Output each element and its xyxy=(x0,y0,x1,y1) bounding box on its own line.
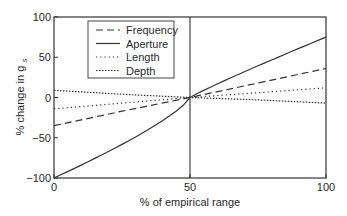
y-axis: −100−50050100 xyxy=(26,11,58,184)
legend-label-depth: Depth xyxy=(126,65,155,77)
legend: FrequencyApertureLengthDepth xyxy=(88,21,178,78)
legend-label-length: Length xyxy=(126,51,160,63)
x-tick-label: 50 xyxy=(184,181,196,193)
chart: −100−50050100 050100 % of empirical rang… xyxy=(0,0,347,216)
y-axis-subscript: s xyxy=(20,59,29,63)
y-tick-label: −100 xyxy=(26,172,51,184)
x-tick-label: 0 xyxy=(51,181,57,193)
legend-label-frequency: Frequency xyxy=(126,24,178,36)
y-tick-label: 50 xyxy=(39,51,51,63)
y-tick-label: 0 xyxy=(45,92,51,104)
x-axis: 050100 xyxy=(51,174,335,193)
y-tick-label: 100 xyxy=(33,11,51,23)
x-axis-title: % of empirical range xyxy=(140,196,240,208)
y-axis-title: % change in g s xyxy=(14,59,29,136)
legend-label-aperture: Aperture xyxy=(126,38,168,50)
x-tick-label: 100 xyxy=(317,181,335,193)
y-tick-label: −50 xyxy=(32,132,51,144)
